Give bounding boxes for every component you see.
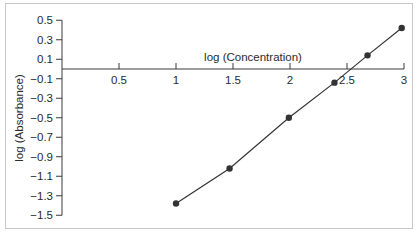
y-tick-label: −1.3 bbox=[30, 190, 53, 202]
data-point bbox=[331, 79, 337, 85]
y-tick-label: −0.5 bbox=[30, 112, 53, 124]
y-tick-label: 0.1 bbox=[37, 53, 53, 65]
y-axis-title: log (Absorbance) bbox=[13, 74, 25, 162]
chart: 0.50.30.1−0.1−0.3−0.5−0.7−0.9−1.1−1.3−1.… bbox=[0, 0, 418, 236]
x-tick-label: 3 bbox=[401, 74, 407, 86]
y-tick-label: −1.1 bbox=[30, 170, 53, 182]
data-point bbox=[173, 200, 179, 206]
x-tick-label: 1.5 bbox=[225, 74, 241, 86]
y-tick-label: −0.3 bbox=[30, 92, 53, 104]
x-tick-label: 2 bbox=[287, 74, 293, 86]
x-tick-label: 1 bbox=[173, 74, 179, 86]
data-point bbox=[399, 25, 405, 31]
y-tick-label: −0.7 bbox=[30, 131, 53, 143]
x-tick-label: 2.5 bbox=[339, 74, 355, 86]
y-axis: 0.50.30.1−0.1−0.3−0.5−0.7−0.9−1.1−1.3−1.… bbox=[30, 14, 62, 221]
data-point bbox=[226, 165, 232, 171]
x-tick-label: 0.5 bbox=[111, 74, 127, 86]
x-axis-title: log (Concentration) bbox=[204, 51, 302, 63]
data-point bbox=[286, 115, 292, 121]
y-tick-label: −0.1 bbox=[30, 73, 53, 85]
y-tick-label: −1.5 bbox=[30, 209, 53, 221]
x-axis: 0.511.522.53 bbox=[62, 63, 407, 86]
y-tick-label: −0.9 bbox=[30, 151, 53, 163]
y-tick-label: 0.5 bbox=[37, 14, 53, 26]
y-tick-label: 0.3 bbox=[37, 34, 53, 46]
data-point bbox=[364, 52, 370, 58]
